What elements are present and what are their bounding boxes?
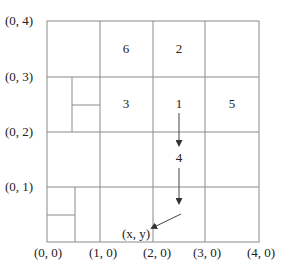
- point-label: (x, y): [122, 227, 150, 241]
- cell-label-4: 4: [176, 151, 183, 165]
- cell-label-5: 5: [229, 97, 236, 111]
- x-label-0: (0, 0): [34, 246, 62, 260]
- x-label-1: (1, 0): [89, 246, 117, 260]
- y-label-1: (0, 1): [5, 180, 33, 194]
- y-label-2: (0, 2): [5, 125, 33, 139]
- arrow-to-point: [152, 214, 181, 228]
- x-label-3: (3, 0): [193, 246, 221, 260]
- x-label-2: (2, 0): [143, 246, 171, 260]
- cell-label-6: 6: [123, 42, 130, 56]
- cell-label-2: 2: [176, 42, 183, 56]
- y-label-4: (0, 4): [5, 14, 33, 28]
- y-label-3: (0, 3): [5, 70, 33, 84]
- cell-label-3: 3: [123, 97, 130, 111]
- x-label-4: (4, 0): [247, 246, 275, 260]
- cell-label-1: 1: [176, 97, 183, 111]
